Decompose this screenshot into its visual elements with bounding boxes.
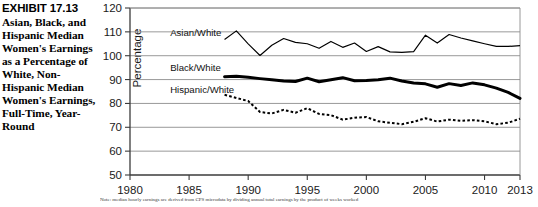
x-tick-label: 1985 — [176, 184, 202, 196]
y-tick-label: 80 — [109, 97, 122, 109]
x-tick-label: 2000 — [354, 184, 380, 196]
y-tick-label: 70 — [109, 121, 122, 133]
x-tick-label: 1990 — [235, 184, 261, 196]
series-label-hispanic-white: Hispanic/White — [170, 84, 234, 95]
y-tick-label: 50 — [109, 169, 122, 181]
y-tick-label: 60 — [109, 145, 122, 157]
chart-note: Note: median hourly earnings are derived… — [100, 197, 536, 203]
series-label-black-white: Black/White — [170, 62, 221, 73]
series-line-hispanic-white — [225, 95, 520, 124]
x-tick-label: 2010 — [472, 184, 498, 196]
x-tick-label: 2005 — [413, 184, 439, 196]
x-tick-label: 1995 — [294, 184, 320, 196]
series-label-asian-white: Asian/White — [170, 27, 221, 38]
y-tick-label: 120 — [103, 2, 122, 14]
x-tick-label: 1980 — [117, 184, 143, 196]
y-tick-label: 110 — [104, 26, 122, 38]
line-chart-plot: 5060708090100110120198019851990199520002… — [98, 0, 538, 196]
exhibit-number: EXHIBIT 17.13 — [2, 2, 98, 15]
x-tick-label: 2013 — [507, 184, 533, 196]
chart-container: Percentage 50607080901001101201980198519… — [98, 0, 538, 196]
exhibit-title: Asian, Black, and Hispanic Median Women'… — [2, 16, 98, 133]
exhibit-caption-block: EXHIBIT 17.13 Asian, Black, and Hispanic… — [2, 2, 98, 133]
y-tick-label: 100 — [103, 50, 122, 62]
series-line-asian-white — [225, 31, 520, 56]
y-tick-label: 90 — [109, 74, 122, 86]
exhibit-figure: EXHIBIT 17.13 Asian, Black, and Hispanic… — [0, 0, 538, 207]
